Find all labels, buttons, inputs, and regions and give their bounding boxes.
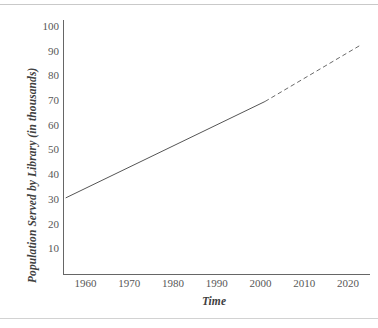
observed-trend-line xyxy=(66,102,265,198)
projected-trend-line xyxy=(265,45,361,102)
line-chart-figure: 102030405060708090100 196019701980199020… xyxy=(0,0,378,328)
series-layer xyxy=(66,45,362,198)
x-tick-label: 1970 xyxy=(109,277,149,289)
x-tick-label: 1990 xyxy=(197,277,237,289)
x-tick-label: 2000 xyxy=(241,277,281,289)
y-axis-title: Population Served by Library (in thousan… xyxy=(26,68,38,283)
y-tick-label: 100 xyxy=(33,20,59,32)
x-tick-label: 1960 xyxy=(65,277,105,289)
x-tick-label: 2020 xyxy=(328,277,368,289)
figure-page: 102030405060708090100 196019701980199020… xyxy=(0,0,378,328)
x-tick-label: 2010 xyxy=(284,277,324,289)
x-tick-label: 1980 xyxy=(153,277,193,289)
x-axis-title: Time xyxy=(0,295,378,307)
y-tick-label: 90 xyxy=(33,45,59,57)
